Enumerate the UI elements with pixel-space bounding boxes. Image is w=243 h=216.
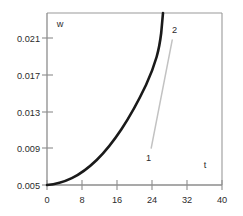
y-tick-label: 0.021 [17,34,40,44]
x-tick-label: 0 [44,195,49,205]
x-tick-label: 8 [79,195,84,205]
y-tick-label: 0.005 [17,181,40,191]
y-tick-label: 0.013 [17,108,40,118]
y-axis-label: w [56,19,64,29]
y-tick-label: 0.017 [17,71,40,81]
chart-canvas: 0.021 0.017 0.013 0.009 0.005 0 8 16 24 … [0,0,243,216]
x-tick-label: 40 [217,195,227,205]
line-label-1: 1 [146,153,151,163]
line-label-2: 2 [172,25,177,35]
chart-figure: 0.021 0.017 0.013 0.009 0.005 0 8 16 24 … [0,0,243,216]
x-axis-label: t [204,160,207,170]
x-tick-label: 32 [182,195,192,205]
x-tick-label: 24 [147,195,157,205]
y-tick-label: 0.009 [17,144,40,154]
x-tick-label: 16 [112,195,122,205]
